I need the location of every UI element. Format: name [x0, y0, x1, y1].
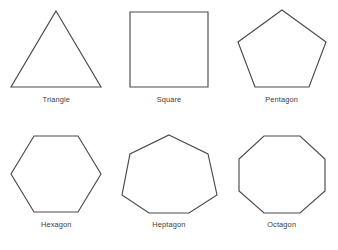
shape-cell-heptagon: Heptagon [113, 125, 226, 250]
shape-cell-pentagon: Pentagon [225, 0, 338, 125]
shapes-figure: Triangle Square Pentagon [0, 0, 338, 250]
hexagon-polygon [11, 136, 101, 212]
pentagon-shape [234, 8, 330, 90]
octagon-shape [234, 133, 330, 215]
shapes-grid: Triangle Square Pentagon [0, 0, 338, 250]
shape-cell-square: Square [113, 0, 226, 125]
shape-cell-triangle: Triangle [0, 0, 113, 125]
square-label: Square [157, 95, 182, 105]
square-shape [121, 8, 217, 90]
heptagon-shape [121, 133, 217, 215]
triangle-polygon [11, 11, 101, 87]
shape-cell-hexagon: Hexagon [0, 125, 113, 250]
pentagon-label: Pentagon [265, 95, 298, 105]
octagon-polygon [239, 136, 325, 213]
hexagon-shape [8, 133, 104, 215]
square-polygon [130, 12, 208, 87]
shape-cell-octagon: Octagon [225, 125, 338, 250]
heptagon-polygon [122, 135, 217, 213]
triangle-shape [8, 8, 104, 90]
heptagon-label: Heptagon [152, 220, 185, 230]
triangle-label: Triangle [43, 95, 71, 105]
pentagon-polygon [238, 10, 326, 87]
octagon-label: Octagon [267, 220, 296, 230]
hexagon-label: Hexagon [41, 220, 72, 230]
